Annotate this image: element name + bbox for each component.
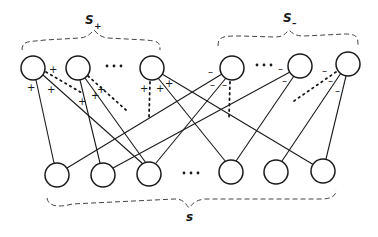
ellipsis-top-left bbox=[106, 65, 123, 68]
node-s-3 bbox=[137, 162, 161, 186]
svg-text:S: S bbox=[85, 13, 94, 27]
node-s-4 bbox=[219, 160, 243, 184]
svg-text:–: – bbox=[278, 63, 283, 74]
node-s-plus-1 bbox=[21, 56, 45, 80]
node-s-1 bbox=[45, 163, 69, 187]
node-s-minus-3 bbox=[336, 52, 360, 76]
edge-sm3-b5 bbox=[282, 73, 341, 161]
svg-text:–: – bbox=[292, 18, 297, 28]
ellipsis-bottom bbox=[183, 172, 200, 175]
edges bbox=[36, 72, 346, 168]
label-s: s bbox=[186, 210, 193, 224]
top-nodes bbox=[21, 52, 360, 80]
svg-text:–: – bbox=[335, 85, 340, 96]
bipartite-network-diagram: S + S – s + + + + + + + + + bbox=[0, 0, 378, 237]
node-s-6 bbox=[311, 159, 335, 183]
node-s-minus-1 bbox=[220, 56, 244, 80]
svg-text:+: + bbox=[94, 21, 102, 31]
ellipsis-top-right bbox=[256, 64, 273, 67]
svg-text:+: + bbox=[165, 78, 173, 89]
svg-text:+: + bbox=[49, 64, 57, 75]
svg-text:–: – bbox=[222, 79, 227, 90]
svg-text:+: + bbox=[156, 83, 164, 94]
node-s-plus-3 bbox=[140, 56, 164, 80]
svg-text:+: + bbox=[140, 83, 148, 94]
svg-text:+: + bbox=[47, 84, 55, 95]
node-s-plus-2 bbox=[66, 56, 90, 80]
node-s-5 bbox=[264, 160, 288, 184]
node-s-minus-2 bbox=[288, 54, 312, 78]
label-s-minus: S – bbox=[283, 11, 297, 28]
dotted-edge-sp3 bbox=[149, 82, 150, 117]
svg-text:–: – bbox=[322, 65, 327, 76]
brace-s-plus bbox=[22, 30, 160, 50]
label-s-plus: S + bbox=[85, 13, 102, 31]
edge-sp3-b6 bbox=[162, 74, 314, 165]
svg-text:–: – bbox=[210, 79, 215, 90]
node-s-2 bbox=[91, 163, 115, 187]
svg-text:+: + bbox=[97, 84, 105, 95]
brace-s-minus bbox=[218, 30, 358, 46]
svg-text:S: S bbox=[283, 11, 292, 25]
svg-text:–: – bbox=[282, 75, 287, 86]
svg-text:–: – bbox=[328, 75, 333, 86]
brace-s bbox=[47, 190, 336, 208]
svg-text:+: + bbox=[78, 96, 86, 107]
dotted-edge-sm1 bbox=[229, 82, 230, 118]
svg-text:–: – bbox=[208, 66, 213, 77]
svg-text:+: + bbox=[27, 82, 35, 93]
